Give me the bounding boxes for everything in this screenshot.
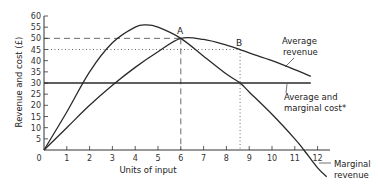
x-tick-label: 12 xyxy=(313,154,323,163)
x-tick-label: 9 xyxy=(247,154,252,163)
x-tick-label: 7 xyxy=(201,154,206,163)
x-tick-label: 2 xyxy=(87,154,92,163)
reference-lines xyxy=(44,38,240,150)
x-tick-label: 10 xyxy=(267,154,277,163)
y-tick-label: 55 xyxy=(31,23,41,32)
y-tick-label: 45 xyxy=(31,46,41,55)
cost-annotation-line2: marginal cost* xyxy=(284,103,346,113)
y-tick-label: 5 xyxy=(36,135,41,144)
x-tick-label: 1 xyxy=(64,154,69,163)
marginal-revenue-annotation-line1: Marginal xyxy=(334,159,371,169)
y-tick-label: 25 xyxy=(31,90,41,99)
cost-annotation-line1: Average and xyxy=(284,92,338,102)
average-revenue-annotation-line1: Average xyxy=(282,36,317,46)
y-tick-label: 40 xyxy=(31,57,41,66)
average-revenue-annotation-line2: revenue xyxy=(283,47,318,57)
x-tick-label: 0 xyxy=(36,154,41,163)
x-axis-title: Units of input xyxy=(119,165,177,175)
chart: 510152025303540455055600123456789101112 … xyxy=(0,0,378,189)
point-a-label: A xyxy=(177,26,184,36)
y-tick-label: 30 xyxy=(31,79,41,88)
y-tick-label: 20 xyxy=(31,101,41,110)
x-tick-label: 8 xyxy=(224,154,229,163)
y-tick-label: 60 xyxy=(31,12,41,21)
x-tick-label: 11 xyxy=(290,154,300,163)
y-axis-title: Revenue and cost (£) xyxy=(14,37,24,128)
x-tick-label: 3 xyxy=(110,154,115,163)
y-tick-label: 10 xyxy=(31,124,41,133)
y-tick-label: 50 xyxy=(31,34,41,43)
average-revenue-line xyxy=(44,37,311,150)
x-tick-label: 4 xyxy=(133,154,138,163)
y-tick-label: 35 xyxy=(31,68,41,77)
point-b-label: B xyxy=(236,38,242,48)
marginal-revenue-annotation-line2: revenue xyxy=(334,170,369,180)
x-tick-label: 6 xyxy=(178,154,183,163)
y-tick-label: 15 xyxy=(31,113,41,122)
x-tick-label: 5 xyxy=(155,154,160,163)
average-revenue-leader xyxy=(285,58,294,67)
